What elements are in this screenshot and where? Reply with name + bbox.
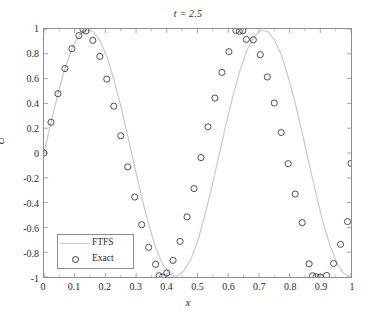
data-point-marker: [306, 261, 312, 267]
y-tick-label: -0.6: [3, 223, 39, 234]
data-point-marker: [348, 160, 351, 166]
x-tick-label: 1: [332, 281, 372, 292]
data-point-marker: [257, 52, 263, 58]
y-tick-label: -0.8: [3, 248, 39, 259]
y-tick-label: 0: [3, 148, 39, 159]
data-point-marker: [97, 53, 103, 59]
data-point-marker: [278, 129, 284, 135]
data-point-marker: [299, 220, 305, 226]
y-axis-tick-labels: 10.80.60.40.20-0.2-0.4-0.6-0.8-1: [0, 28, 39, 278]
figure-canvas: t = 2.5 U x 10.80.60.40.20-0.2-0.4-0.6-0…: [0, 0, 376, 319]
x-axis-label: x: [0, 296, 376, 308]
legend-item-exact: Exact: [58, 251, 133, 267]
legend-item-ftfs: FTFS: [58, 235, 133, 251]
x-axis-tick-labels: 00.10.20.30.40.50.60.70.80.91: [43, 279, 352, 295]
data-point-marker: [184, 214, 190, 220]
y-tick-label: 1: [3, 23, 39, 34]
y-tick-label: -0.4: [3, 198, 39, 209]
data-point-marker: [324, 272, 330, 277]
data-point-marker: [330, 260, 336, 266]
data-point-marker: [337, 241, 343, 247]
legend-circle-marker-icon: [58, 251, 92, 267]
data-point-marker: [264, 74, 270, 80]
data-point-marker: [219, 69, 225, 75]
data-point-marker: [125, 164, 131, 170]
data-point-marker: [132, 194, 138, 200]
data-point-marker: [153, 261, 159, 267]
y-tick-label: -0.2: [3, 173, 39, 184]
legend-label-exact: Exact: [92, 254, 114, 264]
chart-title: t = 2.5: [0, 8, 376, 19]
data-point-marker: [156, 273, 162, 277]
data-point-marker: [118, 133, 124, 139]
y-tick-label: 0.8: [3, 48, 39, 59]
legend-box: FTFS Exact: [57, 234, 134, 269]
data-point-marker: [292, 191, 298, 197]
data-point-marker: [139, 222, 145, 228]
data-point-marker: [205, 124, 211, 130]
y-tick-label: 0.4: [3, 98, 39, 109]
data-point-marker: [90, 37, 96, 43]
y-tick-label: 0.2: [3, 123, 39, 134]
data-point-marker: [285, 161, 291, 167]
data-point-marker: [146, 244, 152, 250]
data-point-marker: [243, 36, 249, 42]
data-point-marker: [344, 219, 350, 225]
y-tick-label: 0.6: [3, 73, 39, 84]
data-point-marker: [170, 257, 176, 263]
data-point-marker: [104, 76, 110, 82]
data-point-marker: [226, 49, 232, 55]
legend-line-sample-icon: [58, 235, 92, 251]
data-point-marker: [191, 186, 197, 192]
data-point-marker: [212, 95, 218, 101]
data-point-marker: [271, 100, 277, 106]
data-point-marker: [177, 238, 183, 244]
data-point-marker: [198, 155, 204, 161]
data-point-marker: [111, 103, 117, 109]
data-point-marker: [310, 273, 316, 277]
legend-label-ftfs: FTFS: [92, 238, 114, 248]
